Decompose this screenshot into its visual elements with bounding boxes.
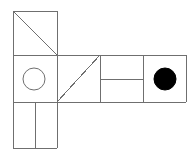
figure-canvas bbox=[0, 0, 196, 157]
filled-circle bbox=[154, 68, 176, 90]
geometric-net-figure bbox=[0, 0, 196, 157]
